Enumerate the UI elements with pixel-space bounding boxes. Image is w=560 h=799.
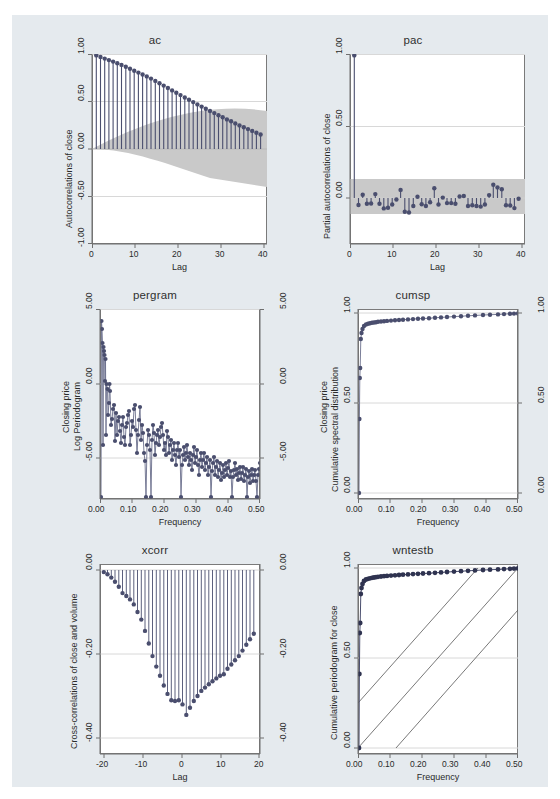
ylabel-pac: Partial autocorrelations of close bbox=[322, 113, 332, 239]
ylabel-wntestb: Cumulative periodogram for close bbox=[329, 605, 339, 740]
xtick-xcorr-0: -20 bbox=[96, 759, 108, 769]
xtick-xcorr-4: 20 bbox=[254, 759, 263, 769]
xtick-pergram-5: 0.50 bbox=[248, 504, 265, 514]
xtick-pergram-3: 0.30 bbox=[184, 504, 201, 514]
xtick-pergram-1: 0.10 bbox=[120, 504, 137, 514]
panel-xcorr: xcorr bbox=[30, 540, 288, 790]
ytick-pergram-0: 5.00 bbox=[84, 292, 94, 309]
ytick-wntestb-0: 1.00 bbox=[342, 551, 352, 568]
ytick-xcorr-1: -0.20 bbox=[84, 639, 94, 658]
ytick-pac-0: 1.00 bbox=[334, 37, 344, 54]
xlabel-xcorr: Lag bbox=[100, 772, 260, 782]
ytick-right-pergram-2: -5.00 bbox=[278, 442, 288, 461]
panel-pergram: pergram bbox=[30, 285, 288, 535]
ylabel-cumsp-line2: Cumulative spectral distribution bbox=[330, 367, 340, 492]
xlabel-ac: Lag bbox=[92, 262, 267, 272]
ylabel-ac: Autocorrelations of close bbox=[64, 129, 74, 228]
ytick-xcorr-0: 0.00 bbox=[84, 553, 94, 570]
xtick-pac-1: 10 bbox=[387, 249, 396, 259]
xtick-pergram-4: 0.40 bbox=[216, 504, 233, 514]
xtick-cumsp-4: 0.40 bbox=[474, 504, 491, 514]
ylabel-pergram-line1: Closing price bbox=[61, 381, 71, 433]
plot-svg-wntestb bbox=[288, 540, 546, 790]
ytick-ac-4: -1.00 bbox=[76, 228, 86, 247]
ytick-ac-1: 0.50 bbox=[76, 84, 86, 101]
xtick-wntestb-5: 0.50 bbox=[506, 759, 523, 769]
xtick-cumsp-2: 0.20 bbox=[410, 504, 427, 514]
ytick-pac-2: 0.00 bbox=[334, 181, 344, 198]
panel-cumsp: cumsp bbox=[288, 285, 546, 535]
xlabel-pergram: Frequency bbox=[100, 517, 260, 527]
xtick-xcorr-2: 0 bbox=[179, 759, 184, 769]
xlabel-pac: Lag bbox=[350, 262, 525, 272]
ytick-cumsp-2: 0.00 bbox=[342, 476, 352, 493]
xtick-wntestb-2: 0.20 bbox=[410, 759, 427, 769]
xcorr-spikes bbox=[104, 570, 254, 715]
ytick-ac-3: -0.50 bbox=[76, 181, 86, 200]
ytick-ac-2: 0.00 bbox=[76, 132, 86, 149]
panel-wntestb: wntestb bbox=[288, 540, 546, 790]
xtick-xcorr-1: -10 bbox=[135, 759, 147, 769]
bartlett-lower-bound bbox=[396, 610, 518, 748]
ytick-right-cumsp-2: 0.00 bbox=[536, 476, 546, 493]
ytick-xcorr-2: -0.40 bbox=[84, 723, 94, 742]
xtick-ac-2: 20 bbox=[172, 249, 181, 259]
panel-ac: ac bbox=[30, 30, 280, 280]
ci-band-pac bbox=[350, 179, 525, 214]
ytick-wntestb-1: 0.50 bbox=[342, 641, 352, 658]
xtick-ac-1: 10 bbox=[129, 249, 138, 259]
ytick-right-pergram-1: 0.00 bbox=[278, 367, 288, 384]
ytick-right-cumsp-1: 0.50 bbox=[536, 386, 546, 403]
xtick-wntestb-4: 0.40 bbox=[474, 759, 491, 769]
ytick-right-xcorr-2: -0.40 bbox=[278, 723, 288, 742]
xtick-wntestb-3: 0.30 bbox=[442, 759, 459, 769]
ytick-pergram-1: 0.00 bbox=[84, 367, 94, 384]
ytick-pac-1: 0.50 bbox=[334, 109, 344, 126]
xtick-wntestb-0: 0.00 bbox=[346, 759, 363, 769]
ytick-cumsp-1: 0.50 bbox=[342, 386, 352, 403]
xtick-ac-4: 40 bbox=[258, 249, 267, 259]
ytick-right-cumsp-0: 1.00 bbox=[536, 296, 546, 313]
bartlett-upper-bound bbox=[358, 568, 478, 703]
xtick-cumsp-5: 0.50 bbox=[506, 504, 523, 514]
xlabel-cumsp: Frequency bbox=[358, 517, 518, 527]
ylabel-xcorr: Cross-correlations of close and volume bbox=[69, 593, 79, 749]
ytick-wntestb-2: 0.00 bbox=[342, 731, 352, 748]
xtick-pac-3: 30 bbox=[473, 249, 482, 259]
ytick-right-pergram-0: 5.00 bbox=[278, 292, 288, 309]
xtick-cumsp-0: 0.00 bbox=[346, 504, 363, 514]
xtick-ac-3: 30 bbox=[215, 249, 224, 259]
xtick-pac-2: 20 bbox=[430, 249, 439, 259]
ylabel-cumsp-line1: Closing price bbox=[319, 381, 329, 433]
xtick-wntestb-1: 0.10 bbox=[378, 759, 395, 769]
xtick-pac-4: 40 bbox=[516, 249, 525, 259]
ytick-ac-0: 1.00 bbox=[76, 37, 86, 54]
xtick-pergram-0: 0.00 bbox=[88, 504, 105, 514]
ytick-right-xcorr-0: 0.00 bbox=[278, 553, 288, 570]
ytick-right-xcorr-1: -0.20 bbox=[278, 639, 288, 658]
ci-band-ac bbox=[92, 109, 267, 187]
xlabel-wntestb: Frequency bbox=[358, 772, 518, 782]
ylabel-pergram-line2: Log Periodogram bbox=[72, 382, 82, 451]
ytick-pergram-2: -5.00 bbox=[84, 442, 94, 461]
figure-sheet: ac bbox=[0, 0, 560, 799]
xtick-pac-0: 0 bbox=[347, 249, 352, 259]
xtick-cumsp-1: 0.10 bbox=[378, 504, 395, 514]
xtick-pergram-2: 0.20 bbox=[152, 504, 169, 514]
ytick-cumsp-0: 1.00 bbox=[342, 296, 352, 313]
panel-pac: pac bbox=[288, 30, 538, 280]
xtick-ac-0: 0 bbox=[89, 249, 94, 259]
xtick-xcorr-3: 10 bbox=[216, 759, 225, 769]
xtick-cumsp-3: 0.30 bbox=[442, 504, 459, 514]
